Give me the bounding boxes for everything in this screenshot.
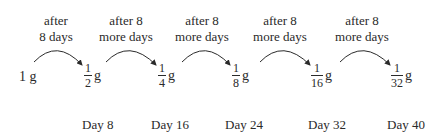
fraction: 1 8 [232,62,240,89]
day-label: Day 16 [151,117,189,133]
fraction: 1 32 [391,62,403,89]
amount-day-32: 1 16 g [311,62,332,89]
caption-line: after [16,13,96,29]
caption-4: after 8 more days [240,13,320,45]
day-label: Day 40 [387,117,425,133]
day-label: Day 24 [225,117,263,133]
unit: g [405,68,412,83]
amount-day-40: 1 32 g [391,62,412,89]
caption-3: after 8 more days [162,13,242,45]
day-label: Day 32 [308,117,346,133]
day-label: Day 8 [82,117,113,133]
arrow-1 [34,51,82,65]
numerator: 1 [393,62,401,74]
fraction: 1 16 [311,62,323,89]
amount-day-8: 1 2 g [84,62,101,89]
denominator: 2 [85,77,91,89]
numerator: 1 [232,62,240,74]
denominator: 4 [159,77,165,89]
arrow-5 [340,51,390,65]
caption-line: after 8 [86,13,166,29]
arrow-3 [182,51,230,65]
caption-line: more days [240,29,320,45]
caption-line: after 8 [240,13,320,29]
unit: g [242,68,249,83]
caption-line: more days [322,29,402,45]
amount-day-16: 1 4 g [158,62,175,89]
numerator: 1 [84,62,92,74]
amount-day-24: 1 8 g [232,62,249,89]
unit: g [168,68,175,83]
caption-line: more days [162,29,242,45]
denominator: 32 [391,77,403,89]
numerator: 1 [158,62,166,74]
caption-1: after 8 days [16,13,96,45]
unit: g [94,68,101,83]
caption-2: after 8 more days [86,13,166,45]
caption-line: after 8 [162,13,242,29]
denominator: 8 [233,77,239,89]
numerator: 1 [313,62,321,74]
start-amount: 1 g [19,69,37,85]
arrow-4 [260,51,310,65]
caption-line: more days [86,29,166,45]
fraction: 1 4 [158,62,166,89]
caption-5: after 8 more days [322,13,402,45]
caption-line: after 8 [322,13,402,29]
arrow-2 [106,51,156,65]
fraction: 1 2 [84,62,92,89]
unit: g [325,68,332,83]
caption-line: 8 days [16,29,96,45]
denominator: 16 [311,77,323,89]
